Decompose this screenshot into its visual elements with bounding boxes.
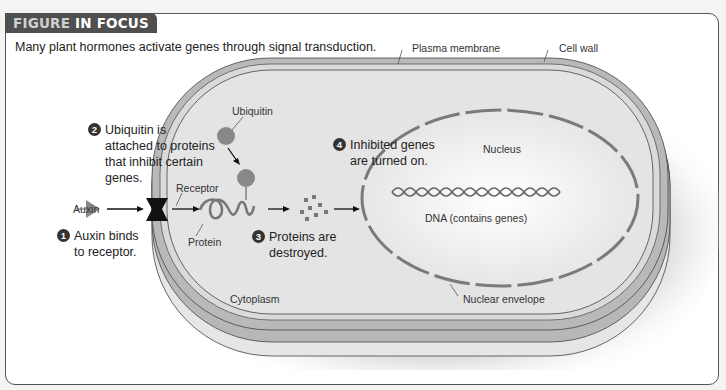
label-ubiquitin: Ubiquitin — [232, 105, 273, 117]
label-protein: Protein — [188, 236, 221, 248]
label-nuclear-envelope: Nuclear envelope — [463, 293, 545, 305]
step-number-badge: 1 — [57, 229, 70, 242]
step-number-badge: 3 — [252, 230, 265, 243]
step-3: 3Proteins are destroyed. — [252, 229, 336, 261]
label-auxin: Auxin — [73, 203, 99, 215]
label-dna: DNA (contains genes) — [425, 212, 527, 224]
label-cytoplasm: Cytoplasm — [230, 293, 280, 305]
step-4: 4Inhibited genes are turned on. — [333, 137, 435, 169]
cell-diagram — [0, 0, 726, 390]
step-2: 2Ubiquitin is attached to proteins that … — [88, 122, 215, 186]
ubiquitin-attached — [237, 169, 255, 187]
label-cell-wall: Cell wall — [559, 42, 598, 54]
step-number-badge: 4 — [333, 138, 346, 151]
step-number-badge: 2 — [88, 123, 101, 136]
step-1: 1Auxin binds to receptor. — [57, 228, 139, 260]
label-plasma-membrane: Plasma membrane — [412, 42, 500, 54]
label-nucleus: Nucleus — [483, 143, 521, 155]
